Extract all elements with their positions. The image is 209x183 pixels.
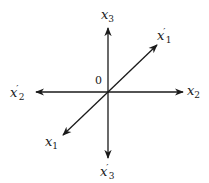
label-x1: x1	[45, 135, 58, 151]
label-x3-prime: x′3	[100, 163, 114, 181]
axes-diagram	[0, 0, 209, 183]
label-x1-prime: x′1	[157, 27, 171, 45]
label-x1-sub: 1	[52, 141, 58, 151]
label-x3-sub: 3	[108, 14, 114, 24]
axis-x1-prime	[108, 45, 157, 92]
label-x1p-sub: 1	[166, 35, 172, 45]
label-x3: x3	[101, 8, 114, 24]
label-x3p-sub: 3	[109, 171, 115, 181]
label-x2: x2	[187, 84, 200, 100]
label-x2-prime: x′2	[10, 84, 24, 102]
label-x2-sub: 2	[194, 90, 200, 100]
axis-x1	[63, 92, 108, 135]
origin-label: 0	[95, 75, 102, 86]
label-x2p-sub: 2	[19, 92, 25, 102]
